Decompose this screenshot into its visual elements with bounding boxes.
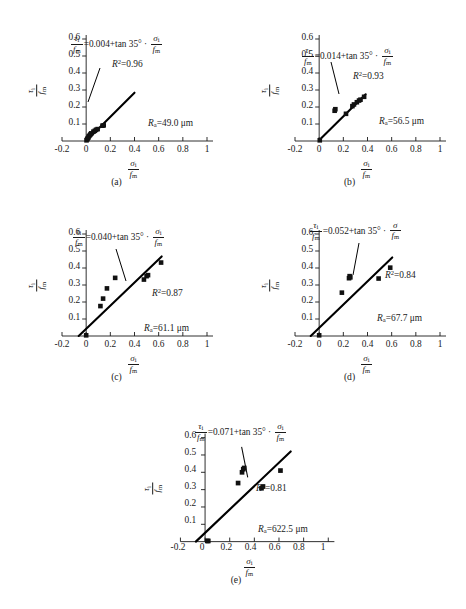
- panel-caption-c: (c): [0, 371, 233, 382]
- x-tick-label: 0.4: [240, 543, 262, 553]
- x-tick-label: 1: [196, 340, 218, 350]
- y-axis-title: τifm: [142, 482, 163, 496]
- x-tick-label: 0.2: [99, 340, 121, 350]
- x-tick-label: 1: [429, 340, 451, 350]
- r-squared-label-d: R2=0.84: [385, 269, 416, 280]
- panel-caption-e: (e): [116, 574, 356, 585]
- y-tick-label: 0.4: [58, 67, 80, 77]
- y-tick-label: 0.5: [291, 245, 313, 255]
- panel-caption-b: (b): [233, 176, 466, 187]
- y-axis-title: τifm: [26, 279, 47, 293]
- x-tick-label: -0.2: [284, 340, 306, 350]
- roughness-label-d: Ra=67.7 μm: [377, 313, 422, 323]
- x-tick-label: 0.8: [405, 340, 427, 350]
- r-squared-label-e: R2=0.81: [256, 482, 287, 493]
- y-tick-label: 0.2: [174, 499, 196, 509]
- y-tick-label: 0.1: [291, 313, 313, 323]
- y-tick-label: 0.2: [291, 296, 313, 306]
- x-tick-label: -0.2: [51, 145, 73, 155]
- y-tick-label: 0.3: [291, 279, 313, 289]
- x-tick-label: -0.2: [51, 340, 73, 350]
- y-axis-title: τifm: [259, 279, 280, 293]
- x-tick-label: 0.6: [148, 145, 170, 155]
- x-tick-label: 0.2: [332, 145, 354, 155]
- x-tick-label: 0: [308, 340, 330, 350]
- y-tick-label: 0.2: [58, 101, 80, 111]
- x-tick-label: 0.6: [381, 145, 403, 155]
- roughness-label-b: Ra=56.5 μm: [379, 116, 424, 126]
- roughness-label-c: Ra=61.1 μm: [144, 323, 189, 333]
- x-tick-label: 0.8: [172, 340, 194, 350]
- roughness-label-e: Ra=622.5 μm: [258, 524, 308, 534]
- figure-container: -0.200.20.40.60.810.10.20.30.40.50.6τifm…: [0, 0, 466, 609]
- x-tick-label: 0: [75, 340, 97, 350]
- x-tick-label: -0.2: [167, 543, 189, 553]
- x-tick-label: 0.2: [215, 543, 237, 553]
- x-tick-label: 0.2: [332, 340, 354, 350]
- y-tick-label: 0.1: [174, 516, 196, 526]
- equation-annotation-e: τifm=0.071+tan 35° · σifm: [194, 422, 287, 443]
- y-tick-label: 0.1: [58, 118, 80, 128]
- y-tick-label: 0.3: [291, 84, 313, 94]
- y-tick-label: 0.6: [174, 431, 196, 441]
- equation-annotation-d: τifm=0.052+tan 35° · σfm: [309, 221, 402, 242]
- x-tick-label: 0: [75, 145, 97, 155]
- y-axis-title: τifm: [259, 84, 280, 98]
- y-tick-label: 0.4: [291, 262, 313, 272]
- y-tick-label: 0.3: [174, 482, 196, 492]
- equation-annotation-c: τifm=0.040+tan 35° · σifm: [72, 227, 165, 248]
- r-squared-label-a: R2=0.96: [112, 58, 143, 69]
- x-tick-label: 0.4: [124, 145, 146, 155]
- panel-caption-d: (d): [233, 371, 466, 382]
- r-squared-label-b: R2=0.93: [353, 70, 384, 81]
- x-tick-label: -0.2: [284, 145, 306, 155]
- x-tick-label: 0.6: [381, 340, 403, 350]
- x-tick-label: 0: [191, 543, 213, 553]
- y-tick-label: 0.1: [58, 313, 80, 323]
- x-tick-label: 0: [308, 145, 330, 155]
- roughness-label-a: Ra=49.0 μm: [148, 118, 193, 128]
- x-tick-label: 0.4: [357, 340, 379, 350]
- y-tick-label: 0.4: [291, 67, 313, 77]
- x-tick-label: 0.6: [148, 340, 170, 350]
- x-tick-label: 1: [429, 145, 451, 155]
- x-tick-label: 1: [312, 543, 334, 553]
- r-squared-label-c: R2=0.87: [152, 287, 183, 298]
- y-axis-title: τifm: [26, 84, 47, 98]
- equation-annotation-a: τifm=0.004+tan 35° · σifm: [70, 34, 163, 55]
- y-tick-label: 0.2: [58, 296, 80, 306]
- y-tick-label: 0.6: [291, 33, 313, 43]
- y-tick-label: 0.4: [58, 262, 80, 272]
- panel-caption-a: (a): [0, 176, 233, 187]
- y-tick-label: 0.5: [174, 448, 196, 458]
- y-tick-label: 0.3: [58, 279, 80, 289]
- y-tick-label: 0.4: [174, 465, 196, 475]
- x-tick-label: 0.8: [288, 543, 310, 553]
- x-tick-label: 0.8: [172, 145, 194, 155]
- equation-annotation-b: τifm=0.014+tan 35° · σifm: [301, 46, 394, 67]
- y-tick-label: 0.2: [291, 101, 313, 111]
- x-tick-label: 0.8: [405, 145, 427, 155]
- x-tick-label: 0.4: [124, 340, 146, 350]
- x-tick-label: 0.4: [357, 145, 379, 155]
- x-tick-label: 0.2: [99, 145, 121, 155]
- y-tick-label: 0.1: [291, 118, 313, 128]
- x-tick-label: 0.6: [264, 543, 286, 553]
- y-tick-label: 0.3: [58, 84, 80, 94]
- x-tick-label: 1: [196, 145, 218, 155]
